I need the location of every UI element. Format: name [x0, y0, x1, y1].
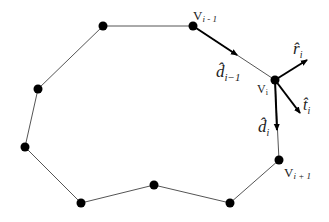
vertex-node-v-cur	[271, 76, 280, 85]
vertex-node	[99, 22, 108, 31]
contour-polygon	[25, 26, 279, 203]
vertex-node	[226, 199, 235, 208]
contour-diagram: Vi - 1 d̂i−1 Vi r̂i t̂i d̂i Vi + 1	[0, 0, 329, 222]
vertex-nodes	[21, 22, 284, 208]
r-i-label: r̂i	[293, 39, 303, 60]
d-i-vector	[275, 80, 277, 130]
vertex-node	[77, 199, 86, 208]
d-i-label: d̂i	[258, 117, 270, 138]
vertex-node	[34, 85, 43, 94]
d-prev-label: d̂i−1	[216, 62, 240, 83]
vertex-node	[150, 181, 159, 190]
vertex-node-v-next	[275, 156, 284, 165]
v-next-label: Vi + 1	[284, 165, 311, 181]
vertex-node	[21, 143, 30, 152]
r-i-vector	[275, 60, 307, 80]
v-prev-label: Vi - 1	[193, 8, 217, 24]
t-i-vector	[275, 80, 300, 113]
d-prev-vector	[193, 26, 237, 55]
v-cur-label: Vi	[257, 82, 269, 97]
t-i-label: t̂i	[303, 96, 310, 116]
